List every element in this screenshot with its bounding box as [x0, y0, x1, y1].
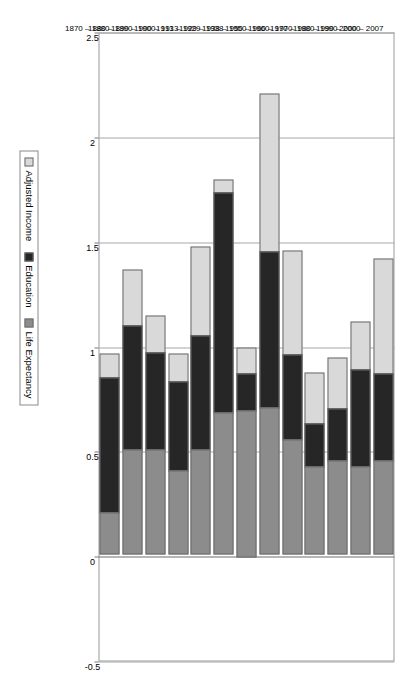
bar-segment-education — [213, 192, 233, 412]
category-axis: 1870 – 18801880 – 18901890 – 19001900 – … — [98, 0, 394, 30]
legend-swatch-icon — [24, 252, 33, 261]
bar-segment-life-expectancy — [213, 412, 233, 555]
bar-stack — [190, 246, 210, 556]
bar-segment-life-expectancy — [282, 439, 302, 554]
bar-segment-education — [236, 373, 256, 411]
bar-segment-education — [190, 335, 210, 450]
bar-segment-adjusted-income — [282, 250, 302, 355]
bar-segment-education — [327, 408, 347, 460]
bar-segment-adjusted-income — [373, 258, 393, 373]
legend-label: Life Expectancy — [23, 331, 34, 398]
bar-stack — [327, 357, 347, 556]
legend-swatch-icon — [24, 157, 33, 166]
bar-stack — [350, 321, 370, 556]
bar-stack — [122, 269, 142, 556]
bars-layer — [98, 32, 394, 661]
bar-segment-life-expectancy — [259, 407, 279, 554]
bar-segment-life-expectancy — [327, 460, 347, 554]
legend-label: Education — [23, 265, 34, 307]
value-axis-tick-label: 1 — [89, 347, 94, 357]
bar-stack — [236, 347, 256, 557]
bar-segment-adjusted-income — [236, 347, 256, 374]
bar-segment-adjusted-income — [168, 353, 188, 382]
bar-segment-adjusted-income — [259, 93, 279, 252]
bar-segment-life-expectancy — [373, 460, 393, 554]
bar-segment-education — [168, 381, 188, 471]
legend-swatch-icon — [24, 318, 33, 327]
bar-segment-education — [350, 369, 370, 468]
bar-stack — [282, 250, 302, 556]
bar-segment-life-expectancy — [190, 449, 210, 554]
bar-stack — [259, 93, 279, 556]
stacked-bar-chart: 1870 – 18801880 – 18901890 – 19001900 – … — [0, 0, 416, 699]
bar-stack — [373, 258, 393, 556]
legend-label: Adjusted Income — [23, 170, 34, 241]
bar-segment-education — [259, 251, 279, 408]
bar-segment-adjusted-income — [304, 372, 324, 424]
value-axis-tick-label: 0.5 — [86, 451, 99, 461]
value-axis: 2.521.510.50-0.5 — [48, 32, 94, 661]
bar-stack — [304, 372, 324, 557]
bar-segment-adjusted-income — [122, 269, 142, 326]
bar-segment-life-expectancy — [168, 470, 188, 554]
plot-area — [98, 32, 394, 661]
bar-segment-education — [304, 423, 324, 467]
value-axis-tick-label: -0.5 — [84, 661, 100, 671]
bar-segment-life-expectancy — [145, 449, 165, 554]
chart-legend: Adjusted IncomeEducationLife Expectancy — [19, 150, 38, 405]
legend-item: Education — [23, 252, 34, 307]
bar-stack — [168, 353, 188, 556]
bar-segment-adjusted-income — [213, 179, 233, 194]
value-axis-tick-label: 0 — [89, 556, 94, 566]
bar-segment-adjusted-income — [99, 353, 119, 378]
bar-segment-education — [373, 373, 393, 461]
chart-rotation-wrapper: 1870 – 18801880 – 18901890 – 19001900 – … — [0, 0, 416, 699]
bar-segment-adjusted-income — [190, 246, 210, 336]
legend-item: Adjusted Income — [23, 157, 34, 241]
bar-segment-education — [145, 352, 165, 451]
bar-segment-adjusted-income — [327, 357, 347, 409]
value-axis-tick-label: 2 — [89, 137, 94, 147]
bar-segment-life-expectancy — [99, 512, 119, 554]
bar-stack — [213, 179, 233, 556]
bar-segment-education — [122, 325, 142, 451]
bar-stack — [145, 315, 165, 556]
category-axis-label: 2000 – 2007 — [338, 23, 383, 32]
bar-segment-education — [99, 377, 119, 513]
value-axis-tick-label: 1.5 — [86, 242, 99, 252]
value-axis-tick-label: 2.5 — [86, 32, 99, 42]
bar-segment-life-expectancy — [122, 449, 142, 554]
legend-item: Life Expectancy — [23, 318, 34, 398]
bar-segment-education — [282, 354, 302, 440]
bar-segment-life-expectancy — [350, 466, 370, 554]
bar-segment-adjusted-income — [350, 321, 370, 369]
bar-segment-life-expectancy — [236, 410, 256, 557]
bar-segment-life-expectancy — [304, 466, 324, 554]
bar-segment-adjusted-income — [145, 315, 165, 353]
bar-stack — [99, 353, 119, 556]
